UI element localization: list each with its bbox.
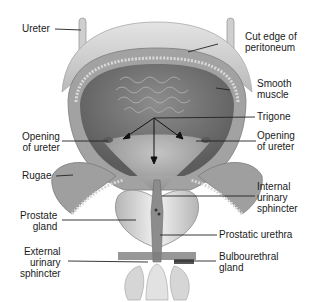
label-line: sphincter — [257, 203, 298, 214]
label-line: gland — [219, 262, 278, 273]
label-rugae: Rugae — [22, 170, 51, 181]
label-line: Rugae — [22, 170, 51, 181]
label-bulbourethral-gland: Bulbourethral gland — [219, 251, 278, 273]
label-line: of ureter — [22, 142, 60, 153]
label-opening-of-ureter-left: Opening of ureter — [22, 131, 60, 153]
label-prostatic-urethra: Prostatic urethra — [219, 229, 292, 240]
label-line: Cut edge of — [245, 31, 297, 42]
label-line: Ureter — [22, 23, 50, 34]
label-line: Internal — [257, 181, 298, 192]
label-line: gland — [20, 221, 57, 232]
label-line: muscle — [257, 89, 291, 100]
label-line: Opening — [257, 130, 295, 141]
label-line: Prostatic urethra — [219, 229, 292, 240]
label-line: Trigone — [257, 111, 291, 122]
label-opening-of-ureter-right: Opening of ureter — [257, 130, 295, 152]
label-line: of ureter — [257, 141, 295, 152]
urethra — [151, 180, 163, 262]
label-cut-edge-of-peritoneum: Cut edge of peritoneum — [245, 31, 297, 53]
external-sphincter — [118, 252, 196, 260]
label-trigone: Trigone — [257, 111, 291, 122]
label-line: Bulbourethral — [219, 251, 278, 262]
label-ureter: Ureter — [22, 23, 50, 34]
label-line: Smooth — [257, 78, 291, 89]
label-internal-urinary-sphincter: Internal urinary sphincter — [257, 181, 298, 214]
rugae-right — [198, 162, 262, 214]
label-line: peritoneum — [245, 42, 297, 53]
label-line: sphincter — [20, 268, 61, 279]
label-line: Prostate — [20, 210, 57, 221]
label-external-urinary-sphincter: External urinary sphincter — [20, 246, 61, 279]
label-prostate-gland: Prostate gland — [20, 210, 57, 232]
label-line: Opening — [22, 131, 60, 142]
label-line: urinary — [20, 257, 61, 268]
label-line: External — [20, 246, 61, 257]
label-line: urinary — [257, 192, 298, 203]
label-smooth-muscle: Smooth muscle — [257, 78, 291, 100]
rugae-left — [52, 162, 116, 214]
